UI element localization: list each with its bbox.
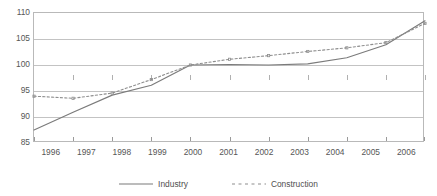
x-axis-tick-label: 1999	[140, 146, 176, 160]
x-axis-tick-label: 2006	[388, 146, 424, 160]
x-axis-tick-label: 2000	[175, 146, 211, 160]
legend-swatch-solid	[119, 180, 153, 188]
y-axis-tick-label: 85	[2, 137, 30, 147]
y-axis-tick-label: 110	[2, 7, 30, 17]
x-axis-tick-label: 2002	[246, 146, 282, 160]
x-axis-tick-label: 2005	[353, 146, 389, 160]
chart-figure: Employment index, manufacturing industry…	[0, 0, 437, 196]
x-axis-tick-label: 2004	[317, 146, 353, 160]
legend-label: Construction	[271, 179, 318, 189]
series-marker-construction	[268, 55, 270, 57]
series-line-construction	[34, 23, 425, 98]
series-line-industry	[34, 21, 425, 130]
y-axis-tick-label: 105	[2, 33, 30, 43]
x-axis-tick-label: 1997	[69, 146, 105, 160]
legend-item-construction[interactable]: Construction	[232, 179, 318, 189]
series-marker-construction	[111, 92, 113, 94]
series-layer	[34, 13, 425, 143]
series-marker-construction	[228, 58, 230, 60]
legend-swatch-dotted	[232, 180, 266, 188]
x-axis-tick-label: 2003	[282, 146, 318, 160]
y-axis-labels: 859095100105110	[0, 12, 30, 142]
y-axis-tick-label: 95	[2, 85, 30, 95]
y-axis-tick-label: 90	[2, 111, 30, 121]
x-axis-tick-label: 1996	[33, 146, 69, 160]
x-axis-tick-mid	[425, 75, 426, 80]
x-axis-tick-label: 2001	[211, 146, 247, 160]
x-axis-labels: 1996199719981999200020012002200320042005…	[33, 146, 424, 160]
y-axis-tick-label: 100	[2, 59, 30, 69]
x-axis-tick-label: 1998	[104, 146, 140, 160]
chart-legend: IndustryConstruction	[0, 175, 437, 193]
plot-area	[33, 12, 424, 142]
legend-item-industry[interactable]: Industry	[119, 179, 188, 189]
legend-label: Industry	[158, 179, 188, 189]
